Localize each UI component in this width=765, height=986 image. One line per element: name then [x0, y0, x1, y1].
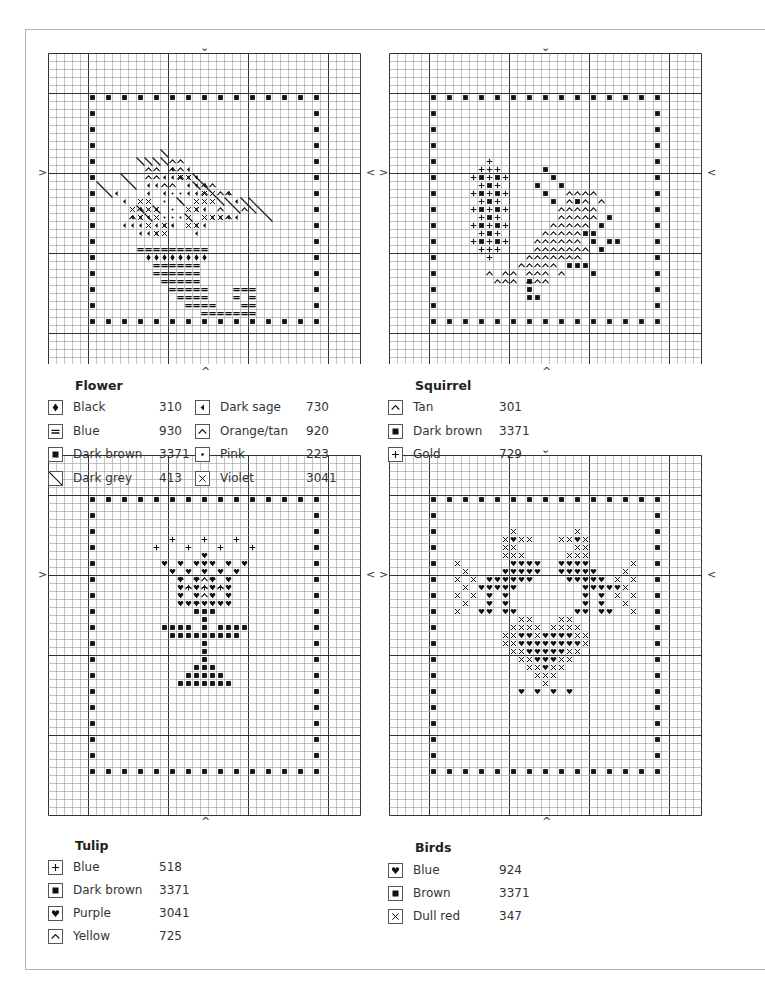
legend-name: Dark grey [73, 471, 159, 485]
tulip-title: Tulip [75, 838, 109, 853]
legend-item-purple: Purple3041 [48, 904, 209, 922]
legend-item-blue: Blue924 [388, 861, 549, 879]
cross-x-icon [388, 909, 403, 924]
legend-item-orange-tan: Orange/tan920 [195, 422, 356, 440]
caret-icon [388, 400, 403, 415]
half-triangle-icon [195, 400, 210, 415]
legend-name: Violet [220, 471, 306, 485]
legend-name: Dark brown [73, 447, 159, 461]
legend-code: 920 [306, 424, 356, 438]
legend-code: 725 [159, 929, 209, 943]
legend-code: 3041 [159, 906, 209, 920]
dot-icon [195, 447, 210, 462]
legend-code: 3371 [159, 883, 209, 897]
legend-name: Dull red [413, 909, 499, 923]
diagonal-icon [48, 471, 63, 486]
legend-code: 3371 [499, 886, 549, 900]
legend-code: 729 [499, 447, 549, 461]
legend-item-dark-brown: Dark brown3371 [388, 422, 549, 440]
tulip-chart: ⌄^>< [48, 455, 361, 818]
flower-title: Flower [75, 378, 123, 393]
square-icon [48, 447, 63, 462]
heart-icon [388, 863, 403, 878]
legend-code: 3371 [499, 424, 549, 438]
legend-item-gold: Gold729 [388, 445, 549, 463]
heart-icon [48, 906, 63, 921]
squirrel-chart: ⌄^>< [389, 53, 702, 364]
diamond-icon [48, 400, 63, 415]
center-marker-bottom: ^ [201, 816, 210, 827]
legend-name: Yellow [73, 929, 159, 943]
birds-chart: ⌄^>< [389, 455, 702, 818]
center-marker-right: < [707, 569, 716, 580]
legend-item-dark-grey: Dark grey413 [48, 469, 209, 487]
center-marker-left: > [379, 569, 388, 580]
square-icon [48, 883, 63, 898]
equals-icon [48, 424, 63, 439]
birds-title: Birds [415, 840, 451, 855]
center-marker-left: > [379, 167, 388, 178]
legend-name: Pink [220, 447, 306, 461]
legend-name: Gold [413, 447, 499, 461]
legend-name: Black [73, 400, 159, 414]
legend-name: Blue [73, 860, 159, 874]
legend-name: Dark brown [413, 424, 499, 438]
center-marker-right: < [366, 167, 375, 178]
caret-icon [48, 929, 63, 944]
legend-item-yellow: Yellow725 [48, 927, 209, 945]
center-marker-left: > [38, 167, 47, 178]
plus-icon [48, 860, 63, 875]
legend-item-dark-sage: Dark sage730 [195, 398, 356, 416]
plus-icon [388, 447, 403, 462]
legend-item-brown: Brown3371 [388, 884, 549, 902]
legend-item-pink: Pink223 [195, 445, 356, 463]
legend-item-blue: Blue930 [48, 422, 209, 440]
legend-item-dull-red: Dull red347 [388, 907, 549, 925]
legend-item-dark-brown: Dark brown3371 [48, 881, 209, 899]
legend-code: 924 [499, 863, 549, 877]
legend-code: 3041 [306, 471, 356, 485]
legend-name: Brown [413, 886, 499, 900]
legend-code: 518 [159, 860, 209, 874]
center-marker-top: ⌄ [541, 42, 550, 53]
center-marker-top: ⌄ [200, 42, 209, 53]
legend-name: Blue [413, 863, 499, 877]
legend-item-violet: Violet3041 [195, 469, 356, 487]
square-icon [388, 886, 403, 901]
legend-item-blue: Blue518 [48, 858, 209, 876]
legend-code: 223 [306, 447, 356, 461]
legend-code: 730 [306, 400, 356, 414]
center-marker-bottom: ^ [201, 366, 210, 377]
square-icon [388, 424, 403, 439]
squirrel-title: Squirrel [415, 378, 471, 393]
legend-item-tan: Tan301 [388, 398, 549, 416]
center-marker-bottom: ^ [542, 816, 551, 827]
center-marker-left: > [38, 569, 47, 580]
flower-chart: ⌄^>< [48, 53, 361, 364]
legend-code: 301 [499, 400, 549, 414]
legend-name: Purple [73, 906, 159, 920]
caret-icon [195, 424, 210, 439]
center-marker-bottom: ^ [542, 366, 551, 377]
legend-name: Dark sage [220, 400, 306, 414]
legend-name: Orange/tan [220, 424, 306, 438]
legend-name: Tan [413, 400, 499, 414]
legend-code: 347 [499, 909, 549, 923]
center-marker-right: < [366, 569, 375, 580]
legend-name: Dark brown [73, 883, 159, 897]
legend-item-dark-brown: Dark brown3371 [48, 445, 209, 463]
legend-name: Blue [73, 424, 159, 438]
legend-item-black: Black310 [48, 398, 209, 416]
center-marker-right: < [707, 167, 716, 178]
cross-x-icon [195, 471, 210, 486]
